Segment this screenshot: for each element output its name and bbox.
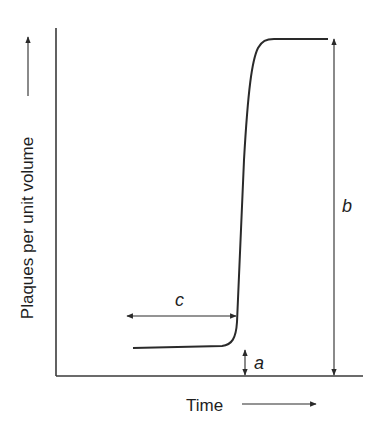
x-axis-label: Time: [186, 396, 223, 415]
c-label: c: [175, 290, 184, 310]
axes: [56, 28, 363, 376]
growth-curve-line: [133, 39, 328, 348]
b-label: b: [342, 196, 352, 216]
growth-curve-diagram: Plaques per unit volume Time c a b: [0, 0, 382, 429]
a-label: a: [254, 353, 264, 373]
annotation-c: c: [127, 290, 236, 316]
x-axis-label-group: Time: [186, 396, 316, 415]
y-axis-label-group: Plaques per unit volume: [18, 37, 37, 319]
annotation-b: b: [334, 39, 352, 375]
y-axis-label: Plaques per unit volume: [18, 137, 37, 319]
annotation-a: a: [245, 350, 264, 375]
